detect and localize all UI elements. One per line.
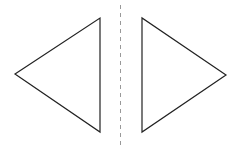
right-triangle [142, 18, 226, 132]
left-triangle [15, 18, 100, 132]
symmetry-diagram [0, 0, 246, 147]
